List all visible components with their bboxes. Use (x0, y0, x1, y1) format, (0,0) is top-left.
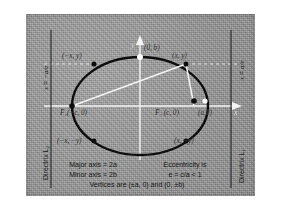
label-right-vertex: (a,0) (198, 110, 212, 117)
directrix-left-subscript: 2 (45, 146, 50, 148)
directrix-left-equation-x: x (42, 87, 50, 90)
directrix-left-name: Directrix L2 (42, 146, 50, 180)
focal-radius-from-f2 (72, 64, 186, 106)
figure-page: y x (−x, y) (0, b) (x, y) F₂(−c, 0) F₁ (… (0, 0, 281, 209)
point-marker-right-vertex (202, 98, 207, 103)
label-top-vertex: (0, b) (144, 45, 160, 52)
directrix-right-equation-x: x (238, 77, 246, 80)
point-marker-upper-right (184, 62, 189, 67)
point-marker-upper-left (92, 62, 97, 67)
directrix-right-subscript: 1 (241, 149, 246, 151)
directrix-right-name: Directrix L1 (238, 149, 246, 183)
point-marker-focus-1 (191, 98, 197, 104)
y-axis-label: y (131, 40, 135, 49)
directrix-right-equation: x = a/e (238, 60, 246, 80)
directrix-left-name-text: Directrix L (42, 148, 49, 180)
directrix-right-equation-eq: = (238, 71, 245, 75)
x-axis-label: x (234, 108, 238, 117)
directrix-left-equation-value: −a/e (42, 66, 50, 79)
caption-left-line2: Minor axis = 2b (50, 170, 136, 179)
label-focus-1: F₁ (c, 0) (155, 110, 179, 117)
label-lower-left-point: (−x, −y) (57, 138, 81, 145)
label-lower-right-point: (x, −y) (174, 138, 194, 145)
label-upper-left-point: (−x, y) (62, 53, 82, 60)
directrix-left-equation-eq: = (42, 81, 49, 85)
point-marker-lower-left (92, 139, 97, 144)
caption-left-line1: Major axis = 2a (50, 160, 136, 169)
caption-right-line1: Eccentricity is (144, 160, 226, 169)
caption-right-line2: e = c/a < 1 (144, 170, 226, 179)
y-axis-arrow-icon (136, 35, 144, 45)
point-marker-focus-2 (69, 103, 75, 109)
directrix-right-name-text: Directrix L (238, 151, 245, 183)
caption-vertices: Vertices are (±a, 0) and (0, ±b) (52, 180, 222, 189)
directrix-right-equation-value: a/e (238, 60, 246, 69)
label-focus-2: F₂(−c, 0) (60, 110, 87, 117)
directrix-left-equation: x = −a/e (42, 66, 50, 90)
point-marker-top-vertex (137, 54, 143, 60)
label-upper-right-point: (x, y) (172, 53, 187, 60)
